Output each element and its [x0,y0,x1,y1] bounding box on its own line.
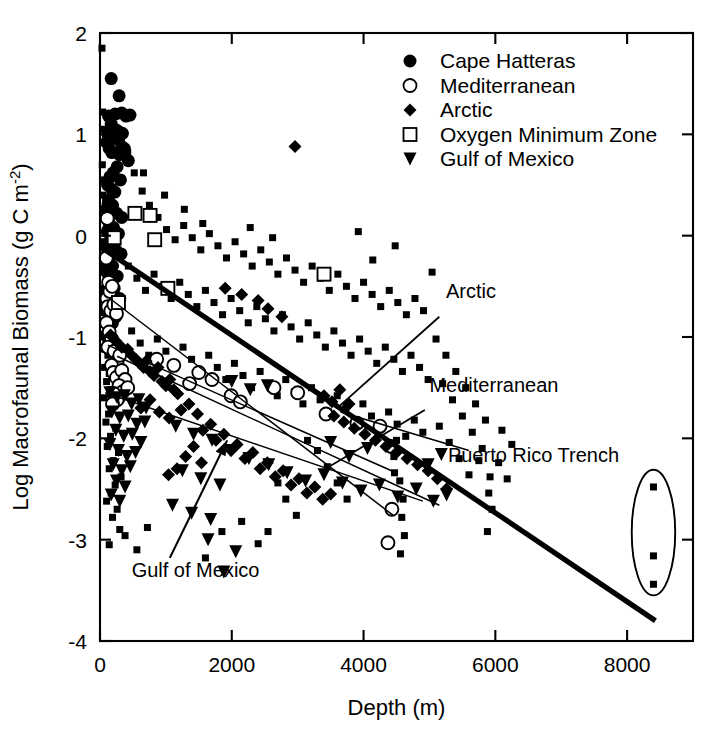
data-point [202,287,209,294]
data-point [498,427,505,434]
data-point [112,296,125,309]
y-tick-label: 0 [75,225,87,248]
data-point [262,302,275,315]
data-point [137,340,144,347]
data-point [231,360,238,367]
data-point [139,188,146,195]
data-point [288,323,295,330]
data-point [162,348,169,355]
data-point [103,498,110,505]
data-point [197,246,204,253]
data-point [436,423,443,430]
x-tick-label: 6000 [472,653,519,676]
data-point [113,89,126,102]
data-point [257,368,264,375]
legend-label-arctic: Arctic [440,98,493,121]
data-point [359,400,366,407]
data-point [223,254,230,261]
data-point [399,368,406,375]
data-point [420,307,427,314]
data-point [189,234,196,241]
data-point [235,288,248,301]
data-point [115,211,128,224]
data-point [433,336,440,343]
y-tick-label: 1 [75,123,87,146]
data-point [266,259,273,266]
data-point [148,233,161,246]
data-point [410,483,423,496]
data-point [344,496,351,503]
x-tick-label: 4000 [340,653,387,676]
data-point [435,448,448,461]
data-point [299,400,306,407]
data-point [330,327,337,334]
data-point [449,396,456,403]
y-tick-label: 2 [75,22,87,45]
data-point [236,307,243,314]
data-point [166,499,179,512]
data-point [192,366,205,379]
data-point [106,280,119,293]
data-point [300,279,307,286]
legend-marker-gulf_of_mexico [404,153,417,166]
data-point [318,268,331,281]
y-tick-label: -2 [68,427,87,450]
data-point [122,532,129,539]
data-point [146,202,153,209]
data-point [142,287,149,294]
data-point [255,540,262,547]
data-point [270,327,277,334]
annotation-gulf-of-mexico: Gulf of Mexico [132,559,260,581]
data-point [313,331,320,338]
data-point [365,348,372,355]
data-point [116,526,123,533]
y-axis-title: Log Macrofaunal Biomass (g C m-2) [6,163,33,510]
data-point [191,408,204,421]
series-omz [108,207,331,309]
data-point [351,295,358,302]
figure-root: 02000400060008000210-1-2-3-4Depth (m)Log… [0,0,712,751]
data-point [401,532,408,539]
data-point [199,220,206,227]
data-point [187,440,200,453]
data-point [322,344,329,351]
data-point [123,109,136,122]
data-point [133,546,140,553]
x-axis-title: Depth (m) [348,695,446,720]
data-point [334,271,341,278]
data-point [238,518,245,525]
data-point [504,475,511,482]
data-point [214,242,221,249]
data-point [398,514,405,521]
data-point [416,364,423,371]
data-point [360,279,367,286]
puerto-rico-trench-point [650,483,657,490]
puerto-rico-trench-point [650,552,657,559]
data-point [397,550,404,557]
data-point [283,254,290,261]
annotation-mediterranean: Mediterranean [429,374,558,396]
data-point [181,206,188,213]
data-point [394,299,401,306]
data-point [269,234,276,241]
data-point [419,429,426,436]
data-point [122,154,135,167]
data-point [151,271,158,278]
data-point [484,528,491,535]
legend-label-gulf_of_mexico: Gulf of Mexico [440,147,574,170]
legend-label-cape_hatteras: Cape Hatteras [440,49,575,72]
data-point [403,311,410,318]
data-point [257,246,264,253]
data-point [275,310,288,323]
data-point [318,468,331,481]
data-point [214,364,221,371]
data-point [167,359,180,372]
data-point [440,489,453,502]
data-point [249,263,256,270]
data-point [205,352,212,359]
data-point [339,340,346,347]
x-tick-label: 0 [94,653,106,676]
data-point [105,72,118,85]
data-point [187,428,200,441]
data-point [429,269,436,276]
